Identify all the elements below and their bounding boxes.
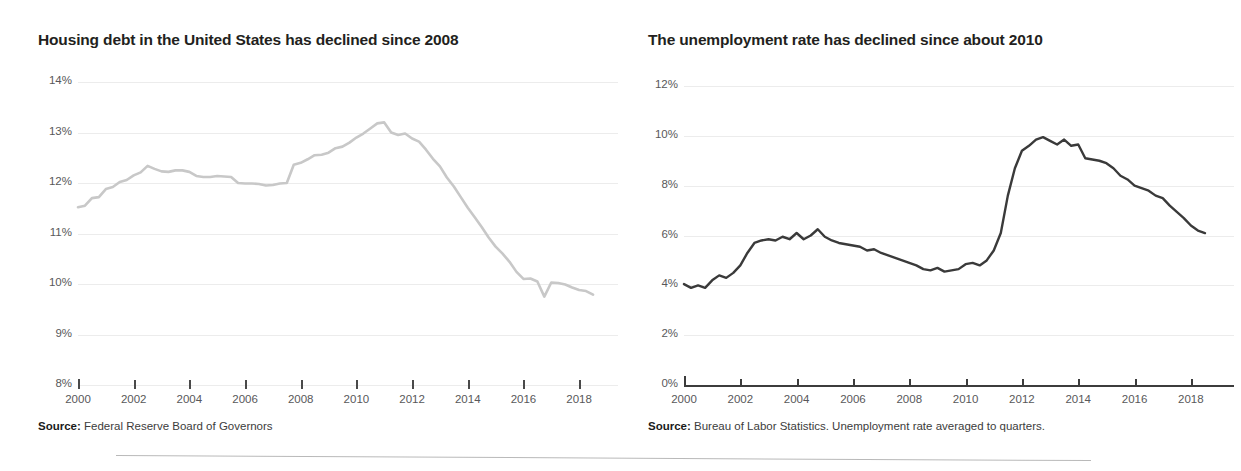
data-series-line [684, 137, 1205, 288]
source-text: Bureau of Labor Statistics. Unemployment… [691, 420, 1045, 432]
source-note: Source: Federal Reserve Board of Governo… [38, 420, 273, 432]
series-canvas [0, 0, 630, 471]
chart-panel-housing-debt: Housing debt in the United States has de… [0, 0, 630, 471]
y-axis-origin-tick [78, 379, 80, 388]
source-note-secondary: Source: Bureau of Labor Statistics. Unem… [648, 420, 1045, 432]
source-label: Source: [38, 420, 81, 432]
y-axis-line [684, 376, 686, 386]
plot-area-housing-debt: 14%13%12%11%10%9%8%200020022004200620082… [0, 0, 630, 471]
chart-panel-unemployment-rate: The unemployment rate has declined since… [630, 0, 1241, 471]
page-root: Housing debt in the United States has de… [0, 0, 1241, 471]
source-label: Source: [648, 420, 691, 432]
series-canvas [630, 0, 1241, 471]
data-series-line [78, 122, 593, 296]
plot-area-unemployment-rate: 12%10%8%6%4%2%0%200020022004200620082010… [630, 0, 1241, 471]
source-text: Federal Reserve Board of Governors [81, 420, 273, 432]
